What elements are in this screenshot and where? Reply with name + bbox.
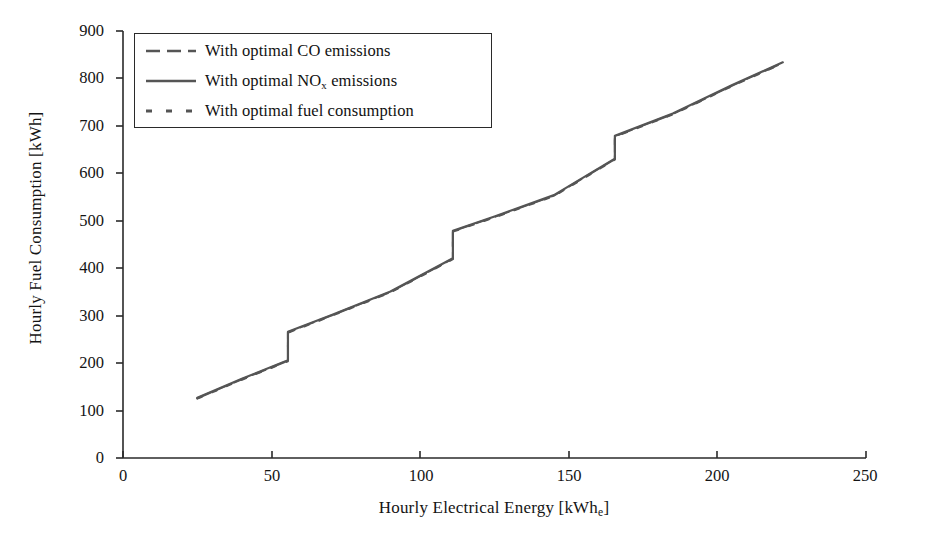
legend-label-co-text: With optimal CO emissions	[205, 41, 391, 60]
legend-label-nox-pre: With optimal NO	[205, 71, 321, 90]
legend: With optimal CO emissions With optimal N…	[134, 33, 492, 128]
legend-label-nox: With optimal NOx emissions	[205, 71, 397, 91]
y-tick-marks	[116, 31, 123, 458]
x-tick-marks	[123, 451, 866, 458]
legend-entry-co: With optimal CO emissions	[145, 36, 391, 66]
chart-figure: Hourly Fuel Consumption [kWh] 900 800 70…	[0, 0, 925, 543]
legend-sample-solid-icon	[145, 74, 197, 88]
legend-sample-long-dash-icon	[145, 44, 197, 58]
legend-label-nox-post: emissions	[327, 71, 397, 90]
legend-label-nox-sub: x	[321, 79, 327, 91]
legend-sample-short-dash-icon	[145, 104, 197, 118]
legend-entry-nox: With optimal NOx emissions	[145, 66, 397, 96]
legend-label-co: With optimal CO emissions	[205, 41, 391, 61]
legend-label-fuel: With optimal fuel consumption	[205, 101, 414, 121]
legend-label-fuel-text: With optimal fuel consumption	[205, 101, 414, 120]
legend-entry-fuel: With optimal fuel consumption	[145, 96, 414, 126]
